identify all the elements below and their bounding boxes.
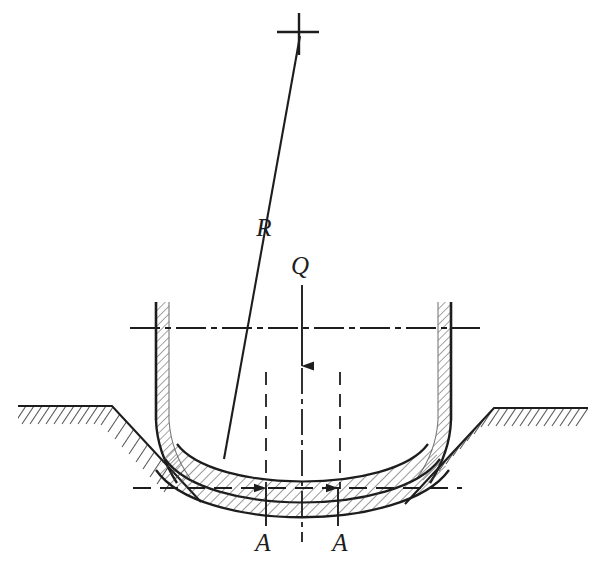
label-load-Q: Q <box>291 252 309 279</box>
bucket-force-diagram: R Q A A <box>0 0 606 563</box>
label-reaction-left-A: A <box>253 529 271 556</box>
label-reaction-right-A: A <box>330 529 348 556</box>
label-resultant-R: R <box>255 214 271 241</box>
cross-marker <box>277 13 319 55</box>
resultant-force-line-R <box>224 36 300 459</box>
figure-root: R Q A A <box>0 0 606 563</box>
